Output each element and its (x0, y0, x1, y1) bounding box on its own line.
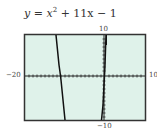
graph-screen (0, 0, 157, 131)
